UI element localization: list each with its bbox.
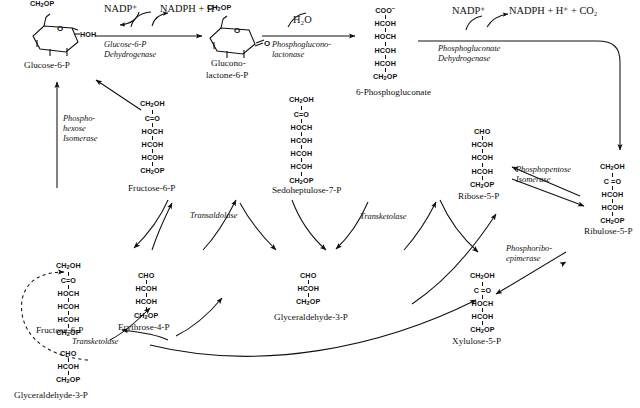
enzyme-transketolase-upper: Transketolase xyxy=(360,212,407,222)
metabolite-name-erythrose-4-p: Erythrose-4-P xyxy=(118,322,170,332)
metabolite-name-fructose-6-p-top: Fructose-6-P xyxy=(128,183,175,193)
metabolite-name-glucose-6-p: Glucose-6-P xyxy=(24,60,70,70)
cofactor-nadph-first: NADPH + H⁺ xyxy=(160,2,219,14)
structure-fructose-6-p-top: CH2OH C=O HOCH HCOH HCOH CH2OP xyxy=(140,100,165,176)
enzyme-6pgdh-line1: Phosphogluconate xyxy=(438,44,500,54)
enzyme-phosphogluconate-dehydrogenase: Phosphogluconate Dehydrogenase xyxy=(438,44,500,64)
enzyme-tal-line1: Transaldolase xyxy=(190,211,237,221)
svg-text:O: O xyxy=(234,26,240,35)
cofactor-nadp-second-text: NADP⁺ xyxy=(452,5,485,16)
cofactor-water: H₂O xyxy=(293,14,312,25)
enzyme-pre-line2: epimerase xyxy=(506,254,552,264)
structure-6-phosphogluconate: COO− HCOH HOCH HCOH HCOH CH2OP xyxy=(373,6,397,82)
structure-ribulose-5-p: CH2OH C =O HCOH HCOH CH2OP xyxy=(600,163,625,226)
metabolite-name-glucono-lactone-line1: Glucono- xyxy=(211,58,246,68)
enzyme-tkt1-line1: Transketolase xyxy=(360,212,407,222)
cofactor-nadph-second: NADPH + H⁺ + CO₂ xyxy=(509,4,597,16)
enzyme-phi-line3: Isomerase xyxy=(63,134,97,144)
structure-glyceraldehyde-3-p-bottom: CHO HCOH CH2OP xyxy=(56,350,80,385)
enzyme-transaldolase: Transaldolase xyxy=(190,211,237,221)
metabolite-name-6-phosphogluconate: 6-Phosphogluconate xyxy=(356,87,431,97)
structure-sedoheptulose-7-p: CH2OH C=O HOCH HCOH HCOH HCOH CH2OP xyxy=(289,96,314,185)
enzyme-phosphohexose-isomerase: Phospho- hexose Isomerase xyxy=(63,114,97,144)
enzyme-g6pdh-line2: Dehydrogenase xyxy=(104,50,156,60)
glucose-6-p-hoh-label: HOH xyxy=(80,31,96,38)
cofactor-nadp-second: NADP⁺ xyxy=(452,4,485,16)
metabolite-name-ribose-5-p: Ribose-5-P xyxy=(458,191,499,201)
cofactor-nadp-first: NADP⁺ xyxy=(104,2,137,14)
enzyme-phosphoribo-epimerase: Phosphoribo- epimerase xyxy=(506,244,552,264)
structure-glucono-lactone-6-p: O O xyxy=(203,8,279,60)
structure-xylulose-5-p: CH2OH C =O HOCH HCOH CH2OP xyxy=(470,272,495,335)
metabolite-name-glyceraldehyde-3-p-bottom: Glyceraldehyde-3-P xyxy=(14,390,88,400)
enzyme-g6pdh-line1: Glucose-6-P xyxy=(104,40,156,50)
glucose-6-p-ch2op-label: CH2OP xyxy=(30,0,54,9)
enzyme-transketolase-lower: Transketolase xyxy=(72,337,119,347)
enzyme-pgl-line2: lactonase xyxy=(272,50,331,60)
enzyme-phosphogluconolactonase: Phosphoglucono- lactonase xyxy=(272,40,331,60)
metabolite-name-glucono-lactone-line2: lactone-6-P xyxy=(206,70,248,80)
enzyme-glucose-6-p-dehydrogenase: Glucose-6-P Dehydrogenase xyxy=(104,40,156,60)
cofactor-nadph-second-text: NADPH + H⁺ + CO₂ xyxy=(509,5,597,16)
enzyme-phi-line2: hexose xyxy=(63,124,97,134)
structure-erythrose-4-p: CHO HCOH HCOH CH2OP xyxy=(134,272,158,320)
enzyme-phosphopentose-isomerase: Phosphopentose Isomerase xyxy=(516,165,571,185)
pathway-diagram: O CH2OP HOH Glucose-6-P O O CH2OP Glucon… xyxy=(0,0,640,408)
structure-ribose-5-p: CHO HCOH HCOH HCOH CH2OP xyxy=(470,128,494,189)
metabolite-name-fructose-6-p-bottom: Fructose-6-P xyxy=(36,325,83,335)
metabolite-name-xylulose-5-p: Xylulose-5-P xyxy=(452,336,501,346)
metabolite-name-glyceraldehyde-3-p-mid: Glyceraldehyde-3-P xyxy=(274,312,348,322)
enzyme-ppi-line2: Isomerase xyxy=(516,175,571,185)
enzyme-pre-line1: Phosphoribo- xyxy=(506,244,552,254)
svg-text:O: O xyxy=(264,39,270,48)
enzyme-tkt2-line1: Transketolase xyxy=(72,337,119,347)
metabolite-name-sedoheptulose-7-p: Sedoheptulose-7-P xyxy=(272,185,341,195)
enzyme-phi-line1: Phospho- xyxy=(63,114,97,124)
structure-glyceraldehyde-3-p-mid: CHO HCOH CH2OP xyxy=(296,272,320,307)
metabolite-name-ribulose-5-p: Ribulose-5-P xyxy=(584,226,633,236)
enzyme-pgl-line1: Phosphoglucono- xyxy=(272,40,331,50)
cofactor-water-text: H₂O xyxy=(293,14,312,25)
enzyme-ppi-line1: Phosphopentose xyxy=(516,165,571,175)
svg-text:O: O xyxy=(57,24,63,33)
cofactor-nadph-first-text: NADPH + H⁺ xyxy=(160,3,219,14)
enzyme-6pgdh-line2: Dehydrogenase xyxy=(438,54,500,64)
cofactor-nadp-first-text: NADP⁺ xyxy=(104,3,137,14)
